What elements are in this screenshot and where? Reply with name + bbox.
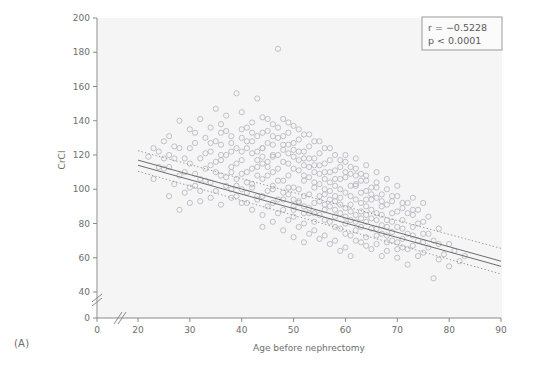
statistics-legend: r = −0.5228p < 0.0001: [422, 17, 502, 50]
y-tick-label: 100: [73, 184, 90, 194]
legend-r-value: r = −0.5228: [428, 22, 487, 33]
x-tick-label: 90: [495, 325, 507, 335]
figure-panel-a: 0406080100120140160180200 02030405060708…: [0, 0, 545, 368]
y-tick-label: 140: [73, 116, 90, 126]
y-axis: 0406080100120140160180200: [73, 13, 97, 323]
x-tick-label: 30: [184, 325, 196, 335]
x-axis: 02030405060708090: [94, 318, 507, 335]
x-tick-label: 50: [288, 325, 300, 335]
y-tick-label: 160: [73, 82, 90, 92]
x-tick-label: 20: [132, 325, 144, 335]
y-tick-label: 60: [79, 253, 91, 263]
x-tick-label: 80: [443, 325, 455, 335]
y-tick-label: 120: [73, 150, 90, 160]
y-tick-label: 40: [79, 287, 91, 297]
x-tick-label: 0: [94, 325, 100, 335]
y-tick-label: 180: [73, 47, 90, 57]
x-tick-label: 70: [392, 325, 404, 335]
y-tick-label: 80: [79, 219, 91, 229]
x-tick-label: 60: [340, 325, 352, 335]
y-axis-title: CrCl: [57, 151, 67, 170]
panel-label: (A): [14, 338, 29, 349]
y-tick-label: 200: [73, 13, 90, 23]
scatter-plot-crcl-vs-age: 0406080100120140160180200 02030405060708…: [0, 0, 545, 368]
legend-p-value: p < 0.0001: [428, 35, 481, 46]
x-axis-title: Age before nephrectomy: [253, 343, 366, 353]
y-tick-label: 0: [84, 313, 90, 323]
x-tick-label: 40: [236, 325, 248, 335]
